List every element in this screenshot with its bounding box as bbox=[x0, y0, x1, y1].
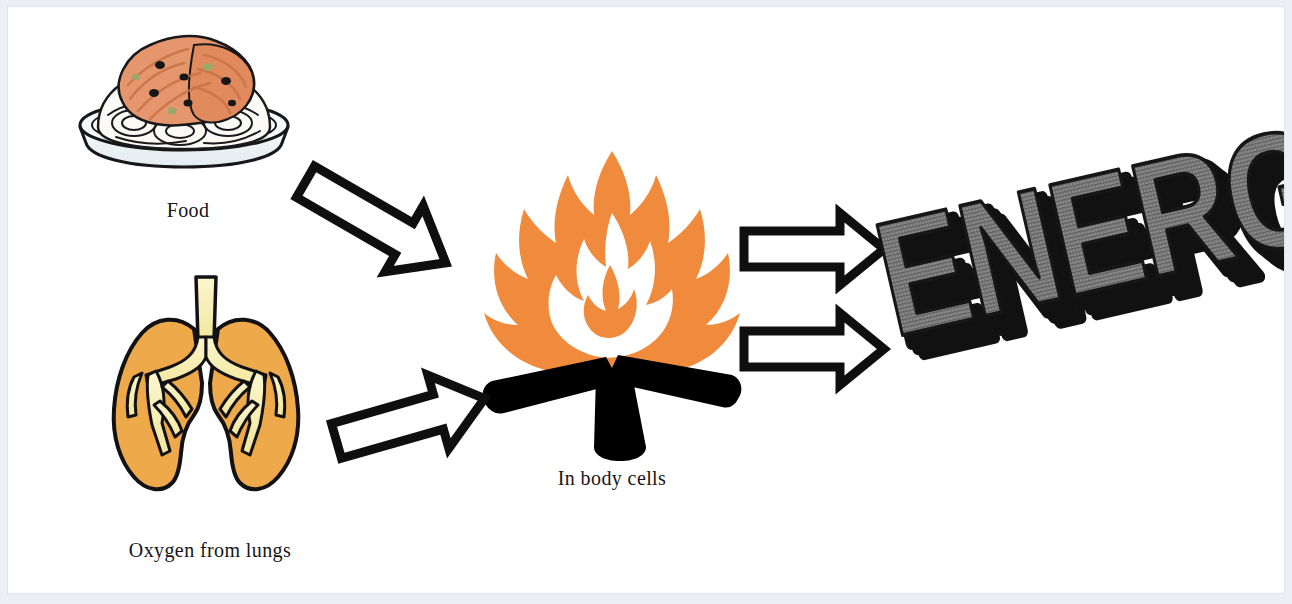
arrow-food-to-fire bbox=[286, 149, 464, 296]
arrow-fire-to-energy-bottom bbox=[744, 313, 884, 385]
plate-of-spaghetti-icon bbox=[80, 36, 288, 167]
campfire-logs bbox=[483, 355, 742, 461]
page-sheet: ENERGY ENERGY ENERGY ENERGY Food Oxygen … bbox=[8, 7, 1284, 593]
lungs-icon bbox=[114, 277, 299, 489]
arrow-lungs-to-fire bbox=[326, 362, 495, 478]
energy-wordart: ENERGY ENERGY ENERGY ENERGY bbox=[861, 68, 1284, 393]
diagram-canvas: ENERGY ENERGY ENERGY ENERGY bbox=[8, 7, 1284, 593]
energy-face: ENERGY bbox=[861, 71, 1284, 370]
caption-in-body-cells: In body cells bbox=[558, 467, 667, 489]
campfire-icon bbox=[483, 151, 742, 461]
caption-food: Food bbox=[167, 199, 210, 221]
arrow-fire-to-energy-top bbox=[744, 213, 884, 285]
caption-oxygen-from-lungs: Oxygen from lungs bbox=[129, 539, 291, 561]
scanned-page-background: ENERGY ENERGY ENERGY ENERGY Food Oxygen … bbox=[0, 0, 1292, 604]
